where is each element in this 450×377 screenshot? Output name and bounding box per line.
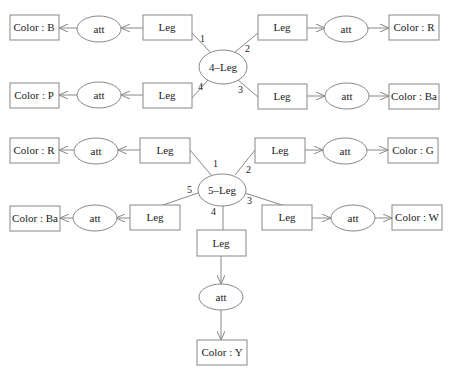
node-4-leg-label: 4–Leg — [209, 61, 238, 73]
edge-5leg-port1 — [190, 150, 211, 175]
leg-label: Leg — [273, 21, 291, 33]
node-color-ba[interactable]: Color : Ba — [10, 206, 60, 231]
leg-label: Leg — [156, 144, 174, 156]
leg-label: Leg — [146, 211, 164, 223]
color-label: Color : W — [395, 211, 439, 223]
node-color-g[interactable]: Color : G — [388, 138, 438, 163]
port-label-1: 1 — [200, 33, 205, 44]
node-color-p[interactable]: Color : P — [10, 83, 59, 108]
node-leg[interactable]: Leg — [258, 84, 307, 109]
node-leg[interactable]: Leg — [255, 138, 305, 163]
color-label: Color : Ba — [12, 212, 58, 224]
node-leg[interactable]: Leg — [140, 138, 190, 163]
node-leg[interactable]: Leg — [143, 83, 192, 108]
leg-label: Leg — [158, 21, 176, 33]
node-att[interactable]: att — [331, 205, 375, 231]
att-label: att — [341, 23, 352, 35]
color-label: Color : R — [14, 144, 56, 156]
node-att[interactable]: att — [324, 16, 368, 42]
port-label-5: 5 — [187, 184, 192, 195]
color-label: Color : Ba — [391, 90, 437, 102]
port-label-4: 4 — [211, 206, 216, 217]
port-label-4: 4 — [198, 81, 203, 92]
node-color-y[interactable]: Color : Y — [197, 340, 247, 365]
leg-label: Leg — [273, 90, 291, 102]
diagram-4-leg: 4–Leg 1 2 3 4 Leg att Color : B Leg — [10, 15, 439, 109]
att-label: att — [91, 145, 102, 157]
att-label: att — [94, 23, 105, 35]
node-att[interactable]: att — [74, 138, 118, 164]
node-att[interactable]: att — [325, 83, 369, 109]
node-att[interactable]: att — [323, 138, 367, 164]
leg-label: Leg — [158, 89, 176, 101]
node-att[interactable]: att — [77, 16, 121, 42]
color-label: Color : R — [394, 21, 436, 33]
port-label-3: 3 — [238, 84, 243, 95]
node-5-leg[interactable]: 5–Leg — [198, 174, 246, 206]
node-leg[interactable]: Leg — [143, 15, 192, 40]
node-4-leg[interactable]: 4–Leg — [199, 50, 247, 84]
leg-label: Leg — [271, 144, 289, 156]
att-label: att — [216, 291, 227, 303]
node-leg[interactable]: Leg — [262, 205, 312, 230]
node-leg[interactable]: Leg — [258, 15, 307, 40]
leg-label: Leg — [212, 237, 230, 249]
node-color-b[interactable]: Color : B — [10, 15, 59, 40]
diagram-5-leg: 5–Leg 1 2 3 4 5 Leg att Color : R Leg — [10, 138, 442, 365]
node-color-ba[interactable]: Color : Ba — [389, 84, 439, 109]
att-label: att — [90, 212, 101, 224]
edge-5leg-port2 — [235, 150, 255, 175]
color-label: Color : Y — [201, 346, 242, 358]
node-5-leg-label: 5–Leg — [208, 184, 237, 196]
node-att[interactable]: att — [77, 82, 121, 108]
att-label: att — [342, 90, 353, 102]
color-label: Color : P — [14, 89, 54, 101]
port-label-2: 2 — [245, 43, 250, 54]
node-color-r[interactable]: Color : R — [389, 15, 439, 40]
node-color-w[interactable]: Color : W — [392, 205, 442, 230]
leg-label: Leg — [278, 211, 296, 223]
node-leg[interactable]: Leg — [197, 230, 246, 256]
edge-5leg-port5 — [163, 193, 198, 205]
node-att[interactable]: att — [199, 284, 243, 310]
att-label: att — [348, 212, 359, 224]
node-leg[interactable]: Leg — [130, 205, 180, 230]
port-label-3: 3 — [247, 195, 252, 206]
port-label-2: 2 — [246, 164, 251, 175]
att-label: att — [340, 145, 351, 157]
color-label: Color : G — [392, 144, 434, 156]
node-color-r[interactable]: Color : R — [10, 138, 59, 163]
color-label: Color : B — [14, 21, 55, 33]
node-att[interactable]: att — [73, 205, 117, 231]
att-label: att — [94, 89, 105, 101]
port-label-1: 1 — [213, 158, 218, 169]
